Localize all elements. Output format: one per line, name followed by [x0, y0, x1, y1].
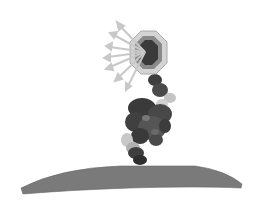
diagram-canvas — [0, 0, 257, 204]
substrate-surface — [21, 166, 242, 194]
